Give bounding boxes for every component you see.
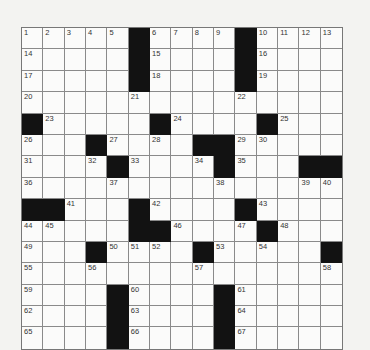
answer-cell[interactable]: 2 bbox=[43, 28, 64, 49]
answer-cell[interactable] bbox=[150, 306, 171, 327]
answer-cell[interactable]: 19 bbox=[257, 71, 278, 92]
answer-cell[interactable]: 3 bbox=[65, 28, 86, 49]
answer-cell[interactable]: 48 bbox=[278, 221, 299, 242]
answer-cell[interactable] bbox=[278, 156, 299, 177]
answer-cell[interactable]: 26 bbox=[22, 135, 43, 156]
answer-cell[interactable]: 20 bbox=[22, 92, 43, 113]
answer-cell[interactable] bbox=[257, 178, 278, 199]
answer-cell[interactable] bbox=[86, 71, 107, 92]
answer-cell[interactable]: 52 bbox=[150, 242, 171, 263]
answer-cell[interactable] bbox=[107, 199, 128, 220]
answer-cell[interactable]: 60 bbox=[129, 285, 150, 306]
answer-cell[interactable]: 37 bbox=[107, 178, 128, 199]
answer-cell[interactable] bbox=[321, 135, 342, 156]
answer-cell[interactable]: 27 bbox=[107, 135, 128, 156]
answer-cell[interactable] bbox=[86, 221, 107, 242]
answer-cell[interactable] bbox=[235, 242, 256, 263]
answer-cell[interactable]: 22 bbox=[235, 92, 256, 113]
answer-cell[interactable] bbox=[171, 199, 192, 220]
answer-cell[interactable] bbox=[214, 263, 235, 284]
answer-cell[interactable] bbox=[43, 306, 64, 327]
answer-cell[interactable] bbox=[86, 199, 107, 220]
answer-cell[interactable] bbox=[193, 221, 214, 242]
answer-cell[interactable]: 11 bbox=[278, 28, 299, 49]
answer-cell[interactable] bbox=[193, 199, 214, 220]
answer-cell[interactable] bbox=[171, 92, 192, 113]
answer-cell[interactable] bbox=[278, 306, 299, 327]
answer-cell[interactable] bbox=[150, 178, 171, 199]
answer-cell[interactable] bbox=[257, 263, 278, 284]
answer-cell[interactable] bbox=[107, 92, 128, 113]
answer-cell[interactable] bbox=[214, 92, 235, 113]
answer-cell[interactable] bbox=[65, 156, 86, 177]
answer-cell[interactable]: 17 bbox=[22, 71, 43, 92]
answer-cell[interactable]: 33 bbox=[129, 156, 150, 177]
answer-cell[interactable]: 18 bbox=[150, 71, 171, 92]
answer-cell[interactable]: 30 bbox=[257, 135, 278, 156]
answer-cell[interactable]: 45 bbox=[43, 221, 64, 242]
answer-cell[interactable] bbox=[299, 221, 320, 242]
answer-cell[interactable] bbox=[321, 285, 342, 306]
answer-cell[interactable] bbox=[65, 71, 86, 92]
answer-cell[interactable] bbox=[107, 114, 128, 135]
answer-cell[interactable]: 35 bbox=[235, 156, 256, 177]
answer-cell[interactable] bbox=[214, 71, 235, 92]
answer-cell[interactable] bbox=[214, 199, 235, 220]
answer-cell[interactable]: 38 bbox=[214, 178, 235, 199]
answer-cell[interactable] bbox=[86, 114, 107, 135]
answer-cell[interactable]: 7 bbox=[171, 28, 192, 49]
answer-cell[interactable] bbox=[65, 263, 86, 284]
answer-cell[interactable] bbox=[214, 114, 235, 135]
answer-cell[interactable]: 6 bbox=[150, 28, 171, 49]
answer-cell[interactable] bbox=[299, 92, 320, 113]
answer-cell[interactable] bbox=[86, 285, 107, 306]
answer-cell[interactable]: 40 bbox=[321, 178, 342, 199]
answer-cell[interactable] bbox=[299, 285, 320, 306]
answer-cell[interactable] bbox=[65, 306, 86, 327]
answer-cell[interactable]: 64 bbox=[235, 306, 256, 327]
answer-cell[interactable]: 16 bbox=[257, 49, 278, 70]
answer-cell[interactable] bbox=[107, 49, 128, 70]
answer-cell[interactable]: 24 bbox=[171, 114, 192, 135]
answer-cell[interactable]: 36 bbox=[22, 178, 43, 199]
answer-cell[interactable] bbox=[278, 71, 299, 92]
answer-cell[interactable] bbox=[257, 285, 278, 306]
answer-cell[interactable] bbox=[321, 49, 342, 70]
answer-cell[interactable]: 5 bbox=[107, 28, 128, 49]
answer-cell[interactable] bbox=[299, 71, 320, 92]
answer-cell[interactable] bbox=[193, 306, 214, 327]
answer-cell[interactable]: 46 bbox=[171, 221, 192, 242]
answer-cell[interactable] bbox=[171, 285, 192, 306]
answer-cell[interactable]: 67 bbox=[235, 327, 256, 348]
answer-cell[interactable] bbox=[150, 156, 171, 177]
answer-cell[interactable] bbox=[43, 327, 64, 348]
answer-cell[interactable] bbox=[321, 327, 342, 348]
answer-cell[interactable] bbox=[65, 92, 86, 113]
answer-cell[interactable]: 14 bbox=[22, 49, 43, 70]
answer-cell[interactable] bbox=[214, 221, 235, 242]
answer-cell[interactable]: 59 bbox=[22, 285, 43, 306]
answer-cell[interactable] bbox=[193, 49, 214, 70]
answer-cell[interactable] bbox=[278, 49, 299, 70]
answer-cell[interactable] bbox=[299, 306, 320, 327]
answer-cell[interactable] bbox=[171, 49, 192, 70]
answer-cell[interactable]: 21 bbox=[129, 92, 150, 113]
answer-cell[interactable] bbox=[235, 114, 256, 135]
answer-cell[interactable] bbox=[299, 327, 320, 348]
answer-cell[interactable] bbox=[193, 327, 214, 348]
answer-cell[interactable] bbox=[321, 92, 342, 113]
answer-cell[interactable] bbox=[299, 114, 320, 135]
answer-cell[interactable] bbox=[65, 221, 86, 242]
answer-cell[interactable] bbox=[43, 71, 64, 92]
answer-cell[interactable] bbox=[65, 178, 86, 199]
answer-cell[interactable] bbox=[171, 178, 192, 199]
answer-cell[interactable]: 49 bbox=[22, 242, 43, 263]
answer-cell[interactable] bbox=[278, 92, 299, 113]
answer-cell[interactable]: 42 bbox=[150, 199, 171, 220]
answer-cell[interactable]: 65 bbox=[22, 327, 43, 348]
answer-cell[interactable] bbox=[193, 285, 214, 306]
answer-cell[interactable]: 23 bbox=[43, 114, 64, 135]
answer-cell[interactable] bbox=[299, 199, 320, 220]
answer-cell[interactable] bbox=[321, 199, 342, 220]
answer-cell[interactable]: 44 bbox=[22, 221, 43, 242]
